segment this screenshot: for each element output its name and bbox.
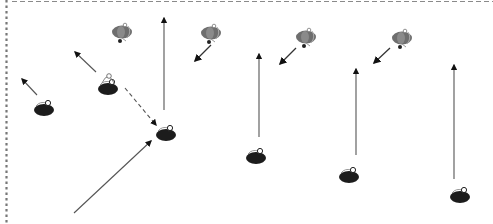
gray-team-player-icon: [296, 28, 316, 48]
dark-team-player-icon: [98, 74, 118, 95]
dark-team-player-icon: [34, 100, 54, 116]
drill-diagram: [0, 0, 493, 224]
run-arrow: [22, 79, 37, 95]
players: [34, 23, 470, 203]
gray-team-player-icon: [112, 23, 132, 43]
run-arrow: [74, 141, 151, 213]
gray-team-player-icon: [392, 29, 412, 49]
pitch-border: [7, 0, 493, 224]
run-arrow: [75, 52, 96, 72]
dark-team-player-icon: [246, 148, 266, 164]
pass-arrow: [125, 88, 156, 125]
dark-team-player-icon: [156, 125, 176, 141]
movement-arrows: [22, 18, 454, 213]
defender-arrow: [374, 48, 390, 63]
dark-team-player-icon: [339, 167, 359, 183]
defender-arrow: [195, 45, 211, 61]
gray-team-player-icon: [201, 24, 221, 44]
dark-team-player-icon: [450, 187, 470, 203]
defender-arrow: [280, 48, 296, 64]
